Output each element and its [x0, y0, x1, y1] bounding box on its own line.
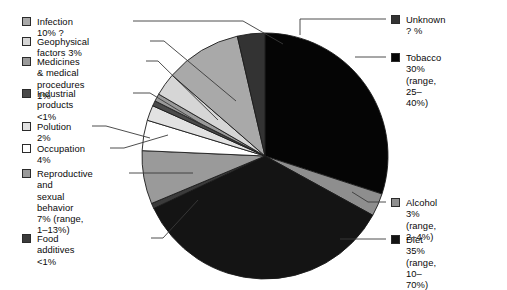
legend-item-reproductive-behavior[interactable]: Reproductive and sexual behavior 7% (ran…	[22, 168, 93, 236]
legend-label-polution: Polution 2%	[37, 121, 71, 144]
legend-item-unknown[interactable]: Unknown ? %	[391, 14, 445, 37]
legend-swatch-diet	[391, 235, 400, 244]
legend-swatch-infection	[22, 17, 31, 26]
legend-swatch-food-additives	[22, 234, 31, 243]
legend-item-occupation[interactable]: Occupation 4%	[22, 143, 85, 166]
legend-swatch-tobacco	[391, 53, 400, 62]
legend-label-food-additives: Food additives <1%	[37, 233, 74, 267]
legend-swatch-unknown	[391, 15, 400, 24]
legend-item-food-additives[interactable]: Food additives <1%	[22, 233, 74, 267]
legend-label-occupation: Occupation 4%	[37, 143, 85, 166]
legend-swatch-industrial-products	[22, 89, 31, 98]
legend-item-diet[interactable]: Diet 35% (range, 10–70%)	[391, 234, 436, 290]
legend-swatch-geophysical-factors	[22, 37, 31, 46]
legend-swatch-polution	[22, 122, 31, 131]
pie-slices: Tobacco 30% (range, 25–40%)Alcohol 3% (r…	[142, 33, 388, 279]
leader-line-polution	[92, 126, 150, 138]
legend-item-tobacco[interactable]: Tobacco 30% (range, 25–40%)	[391, 52, 441, 108]
legend-label-tobacco: Tobacco 30% (range, 25–40%)	[406, 52, 441, 108]
legend-item-polution[interactable]: Polution 2%	[22, 121, 71, 144]
legend-swatch-medicines	[22, 57, 31, 66]
leader-line-unknown	[300, 19, 386, 35]
legend-swatch-occupation	[22, 144, 31, 153]
legend-label-unknown: Unknown ? %	[406, 14, 445, 37]
legend-label-industrial-products: Industrial products <1%	[37, 88, 76, 122]
legend-item-industrial-products[interactable]: Industrial products <1%	[22, 88, 76, 122]
legend-swatch-alcohol	[391, 198, 400, 207]
legend-label-diet: Diet 35% (range, 10–70%)	[406, 234, 436, 290]
legend-swatch-reproductive-behavior	[22, 169, 31, 178]
legend-label-reproductive-behavior: Reproductive and sexual behavior 7% (ran…	[37, 168, 93, 236]
